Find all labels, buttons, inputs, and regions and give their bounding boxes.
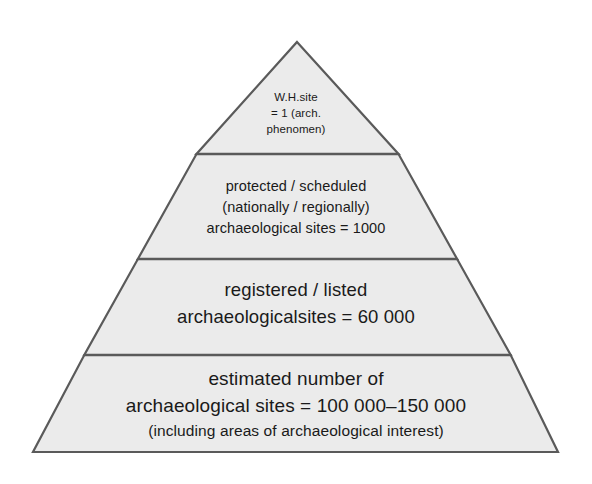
pyramid-diagram: W.H.site = 1 (arch. phenomen) protected … [0,0,592,484]
tier-3-line-2: archaeologicalsites = 60 000 [0,304,592,331]
pyramid-tier-1-label: W.H.site = 1 (arch. phenomen) [0,90,592,138]
pyramid-tier-3-label: registered / listed archaeologicalsites … [0,277,592,331]
tier-1-line-1: W.H.site [0,90,592,106]
tier-3-line-1: registered / listed [0,277,592,304]
tier-4-line-1: estimated number of [0,366,592,393]
pyramid-tier-2-label: protected / scheduled (nationally / regi… [0,176,592,239]
tier-2-line-3: archaeological sites = 1000 [0,218,592,239]
tier-2-line-1: protected / scheduled [0,176,592,197]
pyramid-tier-4-label: estimated number of archaeological sites… [0,366,592,442]
tier-4-line-3: (including areas of archaeological inter… [0,420,592,442]
tier-1-line-3: phenomen) [0,122,592,138]
tier-2-line-2: (nationally / regionally) [0,197,592,218]
tier-1-line-2: = 1 (arch. [0,106,592,122]
tier-4-line-2: archaeological sites = 100 000–150 000 [0,393,592,420]
